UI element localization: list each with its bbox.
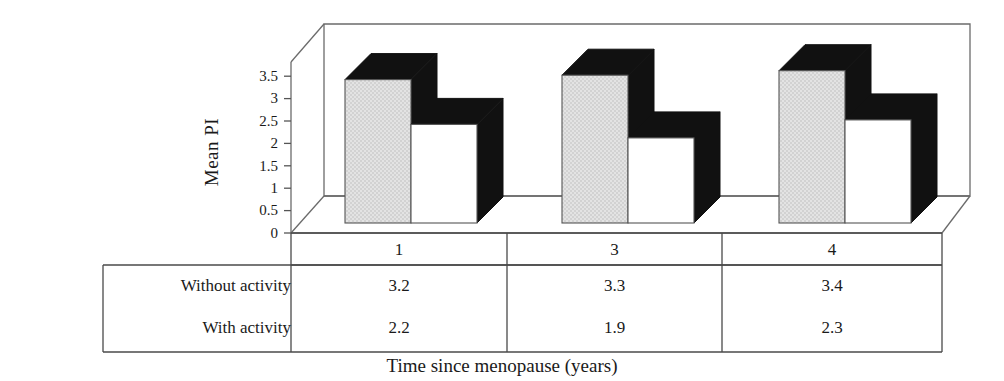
table-header-col-1: 1 (291, 234, 507, 266)
bar-group-3 (779, 45, 937, 223)
table-cell-with-activity-1: 2.2 (291, 312, 507, 344)
y-tick-label-0: 0 (234, 225, 278, 242)
chart-figure: 3.5 3 2.5 2 1.5 1 0.5 0 Mean PI 1 3 4 Wi… (0, 0, 1004, 381)
y-tick-label-2-5: 2.5 (234, 113, 278, 130)
table-row-label-without-activity: Without activity (103, 270, 301, 302)
table-row-label-with-activity: With activity (103, 312, 301, 344)
y-tick-label-3-5: 3.5 (234, 68, 278, 85)
table-header-col-4: 4 (722, 234, 942, 266)
table-cell-without-activity-4: 3.4 (722, 270, 942, 302)
y-axis-ticks (284, 76, 291, 233)
y-tick-label-1-5: 1.5 (234, 158, 278, 175)
table-cell-without-activity-3: 3.3 (507, 270, 722, 302)
bar-group-2 (562, 49, 720, 223)
y-axis-title: Mean PI (201, 87, 223, 217)
table-header-col-3: 3 (507, 234, 722, 266)
y-tick-label-1: 1 (234, 180, 278, 197)
y-tick-label-3: 3 (234, 90, 278, 107)
bar-with-activity-1 (411, 98, 503, 223)
bar-group-1 (345, 54, 503, 223)
bar-with-activity-3 (845, 94, 937, 223)
y-tick-label-0-5: 0.5 (234, 202, 278, 219)
x-axis-title: Time since menopause (years) (0, 355, 1004, 377)
bar-with-activity-2 (628, 112, 720, 223)
table-cell-without-activity-1: 3.2 (291, 270, 507, 302)
table-cell-with-activity-4: 2.3 (722, 312, 942, 344)
y-tick-label-2: 2 (234, 135, 278, 152)
table-cell-with-activity-3: 1.9 (507, 312, 722, 344)
